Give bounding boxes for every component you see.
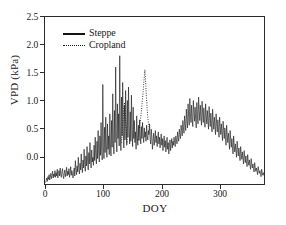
steppe-line (46, 56, 264, 183)
legend-item-steppe: Steppe (63, 27, 155, 39)
legend-solid-line-icon (63, 28, 85, 38)
x-tick-mark-100 (103, 185, 104, 189)
x-tick-mark-200 (162, 185, 163, 189)
plot-area: Steppe Cropland (44, 16, 265, 185)
steppe-series (46, 56, 264, 183)
legend-label-steppe: Steppe (85, 28, 116, 38)
legend-dotted-line-icon (63, 40, 85, 50)
vpd-doy-line-chart: 2.5 2.0 1.5 1.0 0.5 0.0 0 100 200 300 VP… (0, 0, 286, 225)
x-tick-mark-0 (45, 185, 46, 189)
legend-label-cropland: Cropland (85, 40, 125, 50)
legend-item-cropland: Cropland (63, 39, 155, 51)
chart-legend: Steppe Cropland (63, 27, 155, 51)
x-tick-mark-300 (220, 185, 221, 189)
